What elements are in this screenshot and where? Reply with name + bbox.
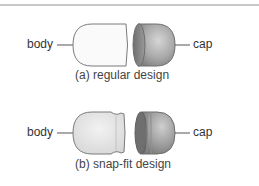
capsule-cap-b-rim (135, 112, 147, 154)
capsule-cap-a-rim (133, 24, 145, 66)
caption-a: (a) regular design (75, 68, 169, 82)
label-body-a: body (27, 37, 53, 51)
capsule-body-a (73, 24, 128, 66)
label-cap-a: cap (193, 37, 212, 51)
label-body-b: body (27, 125, 53, 139)
capsule-body-b (73, 112, 125, 154)
panel-a-regular-design (57, 24, 190, 66)
panel-b-snap-fit-design (57, 112, 190, 154)
label-cap-b: cap (193, 125, 212, 139)
caption-b: (b) snap-fit design (75, 157, 171, 171)
